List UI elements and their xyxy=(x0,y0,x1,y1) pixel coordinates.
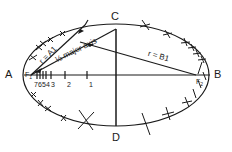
tick-label-3: 3 xyxy=(51,81,55,88)
tick-label-4: 4 xyxy=(46,81,50,88)
point-d-label: D xyxy=(112,132,120,143)
focus-f1-subscript: 1 xyxy=(29,74,32,80)
focus-f1-label: F1 xyxy=(25,71,32,80)
ellipse-diagram: A B C D F1 F2 ½ major axis r = A1 r = B1… xyxy=(0,0,232,152)
r-b1-line xyxy=(80,42,196,75)
ellipse-construction-drawing xyxy=(0,0,232,152)
arc-mark xyxy=(85,20,88,25)
tick-label-2: 2 xyxy=(67,81,71,88)
tick-label-1: 1 xyxy=(89,81,93,88)
focus-f2-subscript: 2 xyxy=(200,81,203,87)
focus-f2-label: F2 xyxy=(196,78,203,87)
point-c-label: C xyxy=(111,11,119,22)
point-a-label: A xyxy=(5,69,12,80)
point-b-label: B xyxy=(214,69,221,80)
